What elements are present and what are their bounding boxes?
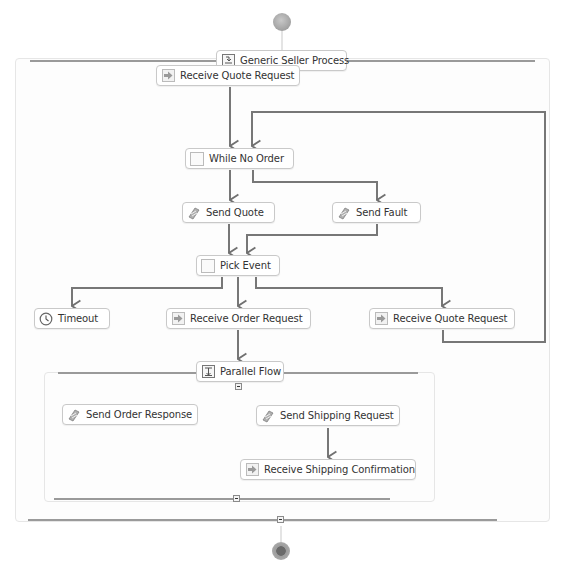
while-loop-icon [190, 152, 204, 166]
pick-event-node[interactable]: Pick Event [196, 255, 280, 276]
send-quote-node[interactable]: Send Quote [182, 202, 275, 223]
send-order-response-node[interactable]: Send Order Response [62, 404, 198, 425]
node-label: While No Order [209, 153, 284, 164]
parallel-collapse-toggle[interactable] [235, 383, 242, 390]
node-label: Receive Quote Request [393, 313, 507, 324]
node-label: Receive Shipping Confirmation [264, 464, 415, 475]
node-label: Send Quote [206, 207, 264, 218]
receive-quote-request-node[interactable]: Receive Quote Request [156, 65, 300, 86]
receive-icon [374, 312, 388, 326]
receive-icon [161, 69, 175, 83]
receive-icon [171, 312, 185, 326]
receive-icon [245, 463, 259, 477]
process-bottom-collapse-toggle[interactable] [277, 516, 284, 523]
send-icon [261, 409, 275, 423]
node-label: Receive Order Request [190, 313, 302, 324]
receive-quote-request-loop-node[interactable]: Receive Quote Request [369, 308, 515, 329]
parallel-flow-icon [201, 365, 215, 379]
node-label: Parallel Flow [220, 366, 281, 377]
end-event-icon[interactable] [272, 542, 290, 560]
send-icon [67, 408, 81, 422]
pick-icon [201, 259, 215, 273]
node-label: Pick Event [220, 260, 271, 271]
node-label: Timeout [58, 313, 98, 324]
parallel-bottom-collapse-toggle[interactable] [233, 495, 240, 502]
receive-order-request-node[interactable]: Receive Order Request [166, 308, 311, 329]
node-label: Send Shipping Request [280, 410, 394, 421]
send-icon [337, 206, 351, 220]
receive-shipping-confirmation-node[interactable]: Receive Shipping Confirmation [240, 459, 416, 480]
send-shipping-request-node[interactable]: Send Shipping Request [256, 405, 400, 426]
send-fault-node[interactable]: Send Fault [332, 202, 421, 223]
while-no-order-node[interactable]: While No Order [185, 148, 294, 169]
node-label: Send Order Response [86, 409, 192, 420]
timeout-node[interactable]: Timeout [34, 308, 110, 329]
send-icon [187, 206, 201, 220]
parallel-flow-node[interactable]: Parallel Flow [196, 361, 284, 382]
clock-icon [39, 312, 53, 326]
node-label: Receive Quote Request [180, 70, 294, 81]
node-label: Send Fault [356, 207, 407, 218]
